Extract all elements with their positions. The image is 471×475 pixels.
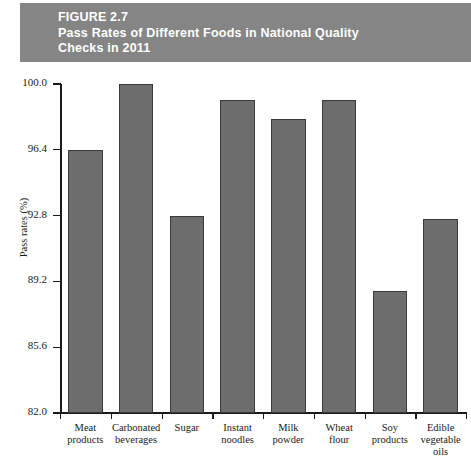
- x-tick-label-line: beverages: [95, 434, 178, 446]
- x-tick-mark: [415, 412, 416, 419]
- x-tick-mark: [212, 412, 213, 419]
- figure-root: FIGURE 2.7 Pass Rates of Different Foods…: [0, 0, 471, 475]
- y-tick-label: 85.6: [3, 339, 47, 351]
- figure-banner-text: FIGURE 2.7 Pass Rates of Different Foods…: [58, 10, 463, 57]
- x-tick-mark: [111, 412, 112, 419]
- bar: [322, 100, 357, 413]
- y-tick-label: 92.8: [3, 208, 47, 220]
- x-tick-label-line: vegetable: [399, 434, 471, 446]
- figure-banner: FIGURE 2.7 Pass Rates of Different Foods…: [20, 3, 471, 62]
- bar-series: [60, 84, 466, 413]
- y-axis-title: Pass rates (%): [18, 168, 29, 288]
- x-tick-mark: [162, 412, 163, 419]
- y-tick-label: 96.4: [3, 142, 47, 154]
- bar: [271, 119, 306, 413]
- bar: [119, 84, 154, 413]
- x-tick-mark: [365, 412, 366, 419]
- x-tick-mark: [263, 412, 264, 419]
- figure-title-line-1: Pass Rates of Different Foods in Nationa…: [58, 26, 463, 42]
- y-tick-label: 89.2: [3, 273, 47, 285]
- x-tick-mark: [60, 412, 61, 419]
- x-tick-label: Ediblevegetableoils: [399, 422, 471, 458]
- figure-title-line-2: Checks in 2011: [58, 41, 463, 57]
- x-tick-mark: [314, 412, 315, 419]
- figure-number: FIGURE 2.7: [58, 10, 463, 26]
- y-tick-label: 82.0: [3, 405, 47, 417]
- bar: [220, 100, 255, 413]
- figure-caption-partial: [28, 462, 458, 472]
- chart-plot-area: Pass rates (%) 100.096.492.889.285.682.0…: [0, 62, 471, 475]
- bar: [170, 216, 205, 413]
- x-tick-label-line: oils: [399, 446, 471, 458]
- bar: [68, 150, 103, 413]
- x-tick-mark: [466, 412, 467, 419]
- bar: [423, 219, 458, 413]
- y-tick-label: 100.0: [3, 76, 47, 88]
- bar: [373, 291, 408, 413]
- x-tick-label-line: Edible: [399, 422, 471, 434]
